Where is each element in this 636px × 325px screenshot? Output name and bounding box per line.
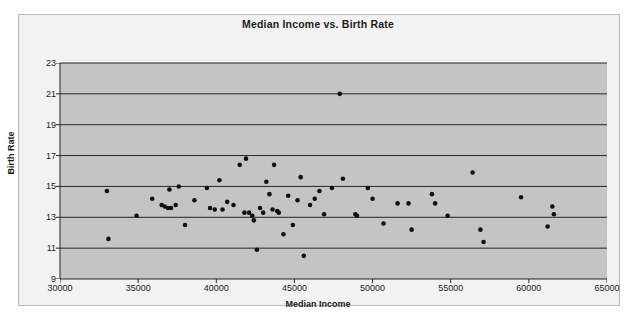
data-point bbox=[445, 213, 450, 218]
data-point bbox=[317, 189, 322, 194]
data-point bbox=[169, 206, 174, 211]
data-point bbox=[366, 186, 371, 191]
x-tick-label: 60000 bbox=[516, 284, 541, 293]
data-point bbox=[481, 240, 486, 245]
y-tick-label: 23 bbox=[30, 59, 56, 68]
data-point bbox=[370, 196, 375, 201]
data-point bbox=[433, 201, 438, 206]
data-point bbox=[322, 212, 327, 217]
gridlines bbox=[60, 63, 607, 279]
x-tick-label: 40000 bbox=[204, 284, 229, 293]
y-tick-label: 15 bbox=[30, 182, 56, 191]
data-point bbox=[291, 223, 296, 228]
data-point bbox=[208, 206, 213, 211]
data-point bbox=[337, 92, 342, 97]
x-axis-ticks bbox=[60, 279, 607, 284]
data-point bbox=[308, 203, 313, 208]
y-tick-label: 17 bbox=[30, 151, 56, 160]
data-point bbox=[298, 175, 303, 180]
scatter-plot-svg bbox=[60, 63, 607, 279]
data-point bbox=[105, 189, 110, 194]
data-point bbox=[231, 203, 236, 208]
data-point bbox=[183, 223, 188, 228]
data-point bbox=[272, 163, 277, 168]
data-point bbox=[258, 206, 263, 211]
data-point bbox=[478, 227, 483, 232]
y-tick-label: 19 bbox=[30, 120, 56, 129]
data-point bbox=[341, 176, 346, 181]
data-point bbox=[395, 201, 400, 206]
data-point bbox=[295, 198, 300, 203]
x-tick-label: 30000 bbox=[47, 284, 72, 293]
data-point bbox=[381, 221, 386, 226]
x-tick-label: 55000 bbox=[438, 284, 463, 293]
data-point bbox=[409, 227, 414, 232]
data-point bbox=[255, 247, 260, 252]
data-point bbox=[552, 212, 557, 217]
data-point bbox=[270, 207, 275, 212]
x-axis-tick-labels: 3000035000400004500050000550006000065000 bbox=[60, 284, 607, 298]
data-point bbox=[545, 224, 550, 229]
y-tick-label: 13 bbox=[30, 213, 56, 222]
data-point bbox=[217, 178, 222, 183]
y-tick-label: 21 bbox=[30, 89, 56, 98]
x-tick-label: 50000 bbox=[360, 284, 385, 293]
data-point bbox=[277, 210, 282, 215]
data-point bbox=[250, 213, 255, 218]
data-point bbox=[192, 198, 197, 203]
x-axis-title: Median Income bbox=[0, 299, 636, 309]
data-point bbox=[176, 184, 181, 189]
data-point bbox=[150, 196, 155, 201]
y-tick-label: 11 bbox=[30, 244, 56, 253]
data-point bbox=[242, 210, 247, 215]
data-point bbox=[167, 187, 172, 192]
x-tick-label: 65000 bbox=[594, 284, 619, 293]
data-point bbox=[261, 210, 266, 215]
data-point bbox=[173, 203, 178, 208]
data-point bbox=[220, 207, 225, 212]
data-point bbox=[237, 163, 242, 168]
y-axis-ticks bbox=[56, 63, 61, 279]
data-point bbox=[286, 193, 291, 198]
data-point bbox=[355, 213, 360, 218]
data-point bbox=[251, 218, 256, 223]
data-point bbox=[212, 207, 217, 212]
data-point bbox=[281, 232, 286, 237]
data-point bbox=[225, 200, 230, 205]
y-axis-title: Birth Rate bbox=[6, 123, 16, 183]
data-point bbox=[302, 254, 307, 259]
data-point bbox=[312, 196, 317, 201]
data-point bbox=[470, 170, 475, 175]
data-point bbox=[106, 237, 111, 242]
plot-area bbox=[60, 63, 607, 279]
x-tick-label: 35000 bbox=[126, 284, 151, 293]
data-point bbox=[406, 201, 411, 206]
data-point bbox=[519, 195, 524, 200]
data-point bbox=[430, 192, 435, 197]
data-point bbox=[330, 186, 335, 191]
chart-title: Median Income vs. Birth Rate bbox=[0, 18, 636, 30]
chart-container: Median Income vs. Birth Rate Birth Rate … bbox=[0, 0, 636, 325]
y-axis-tick-labels: 911131517192123 bbox=[28, 63, 56, 279]
data-point bbox=[244, 156, 249, 161]
data-point bbox=[267, 192, 272, 197]
data-point bbox=[550, 204, 555, 209]
data-point bbox=[205, 186, 210, 191]
data-point bbox=[134, 213, 139, 218]
data-point bbox=[264, 180, 269, 185]
x-tick-label: 45000 bbox=[282, 284, 307, 293]
data-points bbox=[105, 92, 557, 259]
